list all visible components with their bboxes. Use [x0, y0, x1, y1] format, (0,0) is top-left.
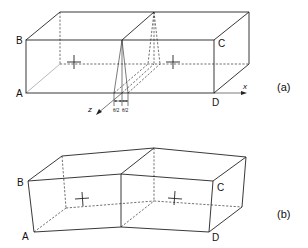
- figure-a-cross-right: [166, 55, 180, 69]
- figure-b-visible-edges: [28, 148, 246, 232]
- figure-a: θ/2 θ/2 x z B A C D (a): [16, 12, 290, 115]
- vertex-label-a: A: [16, 88, 23, 99]
- figure-b-cross-left: [75, 192, 89, 206]
- vertex-label-c: C: [218, 38, 225, 49]
- z-axis-label: z: [87, 105, 92, 114]
- vertex-label-d: D: [212, 232, 219, 243]
- wedge-label-right: θ/2: [122, 108, 129, 113]
- x-axis-label: x: [242, 82, 248, 91]
- vertex-label-d: D: [212, 97, 219, 108]
- z-axis-arrow-icon: [96, 109, 102, 115]
- figure-a-visible-edges: [26, 12, 249, 93]
- figure-b: B A C D (b): [17, 148, 290, 243]
- figure-a-hidden-edges: [26, 12, 249, 93]
- figure-b-cross-right: [168, 191, 182, 205]
- figure-a-label: (a): [277, 81, 290, 93]
- figure-b-label: (b): [277, 208, 290, 220]
- vertex-label-a: A: [22, 231, 29, 242]
- vertex-label-b: B: [17, 177, 24, 188]
- wedge-label-left: θ/2: [113, 108, 120, 113]
- diagram-canvas: θ/2 θ/2 x z B A C D (a): [0, 0, 308, 248]
- figure-a-cross-left: [67, 55, 81, 69]
- vertex-label-b: B: [16, 35, 23, 46]
- wedge-dimension: θ/2 θ/2: [113, 93, 129, 113]
- x-axis-arrow-icon: [241, 91, 247, 95]
- vertex-label-c: C: [217, 182, 224, 193]
